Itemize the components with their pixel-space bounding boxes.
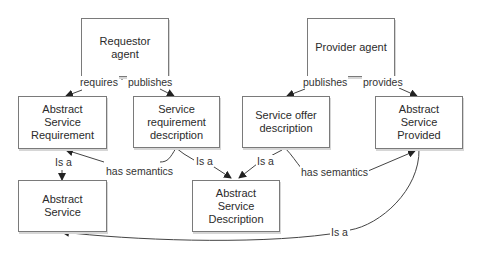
edge-label-is-a: Is a bbox=[330, 226, 349, 238]
node-abstract-service[interactable]: Abstract Service bbox=[18, 180, 107, 232]
edge-label-publishes: publishes bbox=[302, 76, 348, 88]
node-label: Provider agent bbox=[311, 41, 391, 54]
node-abstract-service-provided[interactable]: Abstract Service Provided bbox=[375, 96, 463, 149]
node-service-offer-description[interactable]: Service offer description bbox=[242, 96, 330, 148]
edge-srd-has-semantics bbox=[66, 148, 176, 162]
edge-prov-publishes bbox=[287, 89, 305, 96]
node-label: Abstract Service Description bbox=[193, 187, 279, 226]
node-abstract-service-requirement[interactable]: Abstract Service Requirement bbox=[18, 96, 107, 149]
node-label: Service requirement description bbox=[134, 103, 219, 142]
node-label: Requestor agent bbox=[82, 35, 168, 61]
edge-srd-has-semantics-tail bbox=[176, 148, 194, 160]
edge-label-provides: provides bbox=[362, 76, 404, 88]
edge-label-requires: requires bbox=[79, 76, 119, 88]
edge-req-publishes bbox=[160, 89, 174, 96]
edge-srd-is-a bbox=[211, 165, 231, 178]
node-service-requirement-description[interactable]: Service requirement description bbox=[133, 96, 220, 148]
edge-label-publishes: publishes bbox=[127, 76, 173, 88]
node-label: Service offer description bbox=[243, 109, 329, 135]
edge-label-has-semantics: has semantics bbox=[105, 165, 174, 177]
diagram-canvas: Requestor agent Provider agent Abstract … bbox=[0, 0, 478, 256]
edge-provides bbox=[399, 88, 417, 96]
edge-label-is-a: Is a bbox=[54, 156, 73, 168]
node-requestor-agent[interactable]: Requestor agent bbox=[81, 18, 169, 77]
edge-label-is-a: Is a bbox=[256, 155, 275, 167]
edge-label-has-semantics: has semantics bbox=[300, 166, 369, 178]
node-abstract-service-description[interactable]: Abstract Service Description bbox=[192, 180, 280, 232]
node-provider-agent[interactable]: Provider agent bbox=[307, 18, 395, 77]
node-label: Abstract Service Provided bbox=[376, 103, 462, 142]
edge-label-is-a: Is a bbox=[195, 155, 214, 167]
node-label: Abstract Service Requirement bbox=[19, 103, 106, 142]
node-label: Abstract Service bbox=[19, 193, 106, 219]
